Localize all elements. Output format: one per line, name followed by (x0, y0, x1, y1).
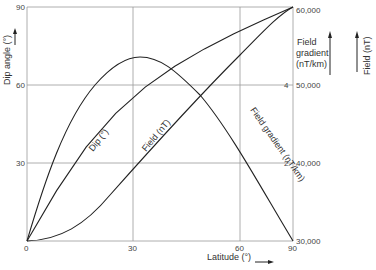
x-tick-0: 0 (24, 244, 29, 253)
field-arrow-up-icon (355, 31, 359, 72)
arrow-right-icon (255, 260, 274, 264)
arrow-up-icon (13, 28, 17, 45)
y-tick-90: 90 (16, 3, 25, 12)
x-axis-label: Latitude (°) (207, 252, 251, 262)
gradient-tick-4: 4 (284, 81, 289, 90)
field-tick-40000: 40,000 (296, 159, 321, 168)
field-gradient-curve-label: Field gradient (nT/km) (248, 105, 307, 183)
geomagnetic-chart: Dip (°) Field (nT) Field gradient (nT/km… (0, 0, 376, 270)
field-tick-60000: 60,000 (296, 6, 321, 15)
gradient-tick-2: 2 (284, 159, 289, 168)
y-tick-30: 30 (16, 159, 25, 168)
field-tick-30000: 30,000 (296, 237, 321, 246)
gradient-axis-label-2: gradient (296, 48, 329, 58)
gradient-axis-label-3: (nT/km) (296, 59, 327, 69)
gradient-axis-label-1: Field (297, 37, 317, 47)
dip-axis-label: Dip angle (°) (2, 35, 12, 85)
field-curve-label: Field (nT) (140, 117, 172, 153)
y-tick-60: 60 (16, 81, 25, 90)
field-axis-label: Field (nT) (362, 36, 372, 75)
x-tick-30: 30 (128, 244, 137, 253)
dip-curve-label: Dip (°) (87, 127, 111, 153)
gradient-arrow-up-icon (328, 31, 332, 75)
field-tick-50000: 50,000 (296, 81, 321, 90)
